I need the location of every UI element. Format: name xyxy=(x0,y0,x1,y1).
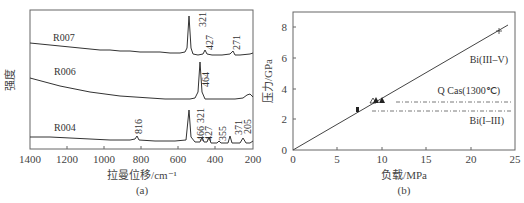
tick-label: 8 xyxy=(282,21,288,33)
figure: 1400 1200 1000 800 600 400 200 拉曼位移/cm⁻¹… xyxy=(0,0,524,203)
x-axis-ticks: 0 5 10 15 20 25 xyxy=(290,153,521,165)
tick-label: 6 xyxy=(282,52,288,64)
annotation-bi-iii-v: Bi(III–V) xyxy=(470,54,508,66)
data-point-square xyxy=(356,107,359,112)
series-label-r006: R006 xyxy=(54,66,76,77)
peak-label: 321 xyxy=(197,12,208,27)
peak-label: 427 xyxy=(204,35,215,50)
tick-label: 1000 xyxy=(93,153,116,165)
peak-label: 205 xyxy=(242,119,253,134)
peak-label: 321 xyxy=(195,108,206,123)
plot-frame xyxy=(293,12,515,150)
tick-label: 5 xyxy=(334,153,340,165)
series-label-r004: R004 xyxy=(54,122,76,133)
panel-caption: (b) xyxy=(398,184,411,197)
tick-label: 400 xyxy=(207,153,224,165)
tick-label: 0 xyxy=(290,153,296,165)
peak-label: 355 xyxy=(217,126,228,141)
tick-label: 200 xyxy=(245,153,262,165)
peak-label: 427 xyxy=(203,126,214,141)
tick-label: 15 xyxy=(421,153,433,165)
x-axis-ticks: 1400 1200 1000 800 600 400 200 xyxy=(19,153,262,165)
peak-label: 816 xyxy=(133,119,144,134)
tick-label: 4 xyxy=(282,83,288,95)
tick-label: 20 xyxy=(466,153,478,165)
tick-label: 2 xyxy=(282,113,288,125)
y-axis-ticks: 0 2 4 6 8 xyxy=(282,21,288,156)
tick-label: 800 xyxy=(133,153,150,165)
y-axis-label: 压力/GPa xyxy=(262,59,274,103)
panel-b-pressure-chart: 0 5 10 15 20 25 0 2 4 6 8 负载/MPa (b) 压力/… xyxy=(262,12,521,197)
panel-caption: (a) xyxy=(136,184,149,197)
tick-label: 1200 xyxy=(56,153,79,165)
peak-label: 464 xyxy=(200,72,211,87)
tick-label: 1400 xyxy=(19,153,42,165)
tick-label: 600 xyxy=(170,153,187,165)
series-label-r007: R007 xyxy=(53,32,75,43)
y-axis-label: 强度 xyxy=(3,69,16,91)
tick-label: 25 xyxy=(510,153,522,165)
tick-label: 10 xyxy=(377,153,389,165)
x-axis-label: 拉曼位移/cm⁻¹ xyxy=(107,168,177,181)
peak-label: 271 xyxy=(231,35,242,50)
annotation-qcas: Q Cas(1300℃) xyxy=(438,85,500,97)
annotation-bi-i-iii: Bi(I–III) xyxy=(470,115,504,127)
x-axis-label: 负载/MPa xyxy=(381,168,427,181)
panel-a-raman-chart: 1400 1200 1000 800 600 400 200 拉曼位移/cm⁻¹… xyxy=(3,10,262,197)
tick-label: 0 xyxy=(282,144,288,156)
